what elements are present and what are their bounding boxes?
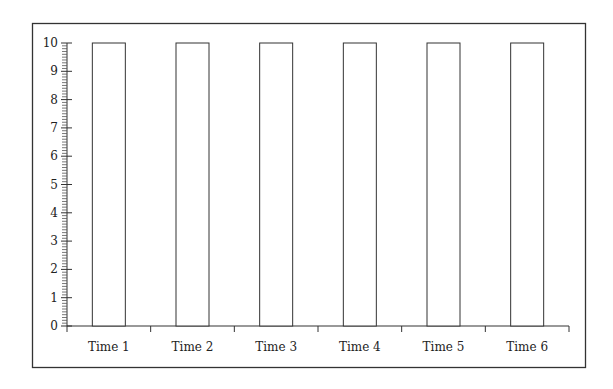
bar — [427, 43, 460, 326]
bar — [511, 43, 544, 326]
x-tick-label: Time 6 — [506, 340, 548, 354]
x-tick-label: Time 3 — [255, 340, 297, 354]
bars — [92, 43, 543, 326]
bar — [343, 43, 376, 326]
y-axis: 012345678910 — [43, 36, 72, 333]
y-tick-label: 9 — [50, 64, 58, 78]
y-tick-label: 7 — [50, 121, 58, 135]
y-tick-label: 6 — [50, 149, 58, 163]
y-tick-label: 5 — [50, 178, 58, 192]
x-tick-label: Time 5 — [423, 340, 465, 354]
bar — [92, 43, 125, 326]
bar-chart: 012345678910 Time 1Time 2Time 3Time 4Tim… — [0, 0, 613, 389]
bar — [176, 43, 209, 326]
y-tick-label: 4 — [50, 206, 58, 220]
x-tick-label: Time 4 — [339, 340, 381, 354]
x-tick-label: Time 2 — [172, 340, 214, 354]
x-axis-labels: Time 1Time 2Time 3Time 4Time 5Time 6 — [88, 340, 548, 354]
y-tick-label: 8 — [50, 93, 58, 107]
x-axis — [67, 326, 569, 332]
y-tick-label: 3 — [50, 234, 58, 248]
x-tick-label: Time 1 — [88, 340, 130, 354]
bar — [260, 43, 293, 326]
y-tick-label: 0 — [50, 319, 58, 333]
y-tick-label: 10 — [43, 36, 58, 50]
y-tick-label: 1 — [50, 291, 58, 305]
y-tick-label: 2 — [50, 262, 58, 276]
